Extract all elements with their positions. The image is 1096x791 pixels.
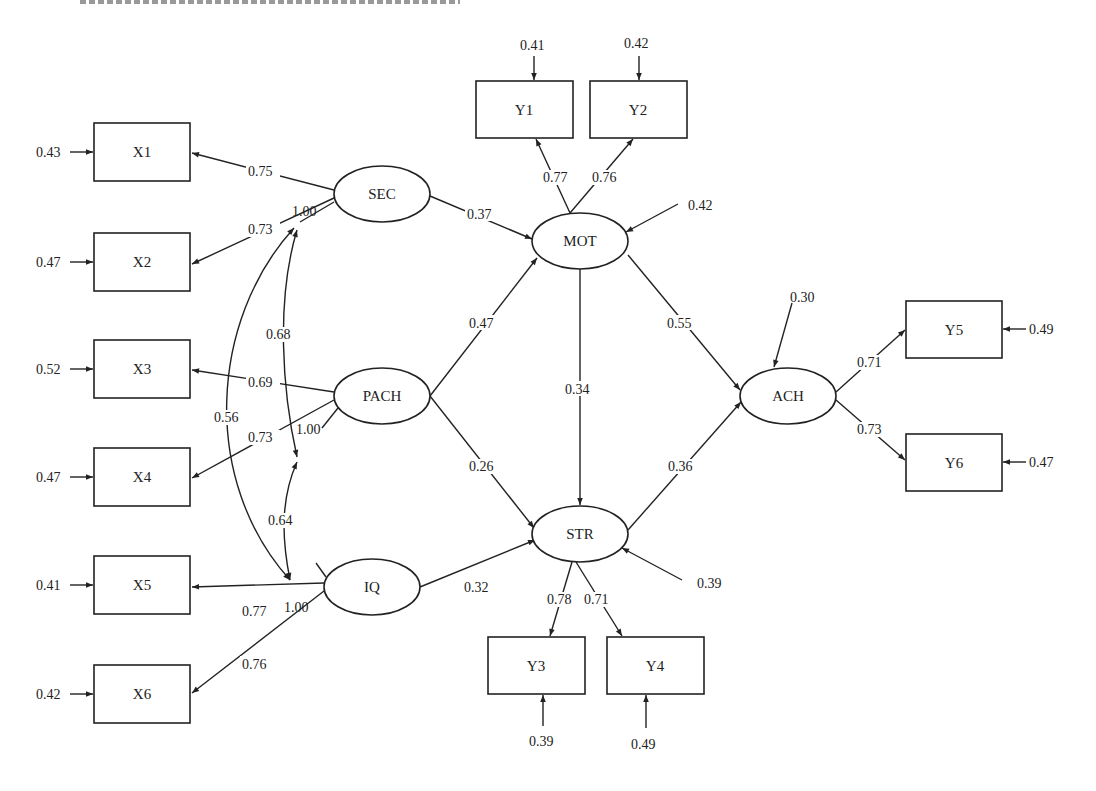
latent-ach: ACH xyxy=(740,368,836,424)
error-x2: 0.47 xyxy=(36,255,61,270)
error-y6: 0.47 xyxy=(1029,455,1054,470)
dist-arrow-ach xyxy=(774,303,792,367)
error-x3: 0.52 xyxy=(36,362,61,377)
cov-sec-pach xyxy=(283,230,297,457)
label-x1: X1 xyxy=(133,144,151,160)
label-y4: Y4 xyxy=(646,658,665,674)
loading-str-y4: 0.71 xyxy=(584,592,609,607)
observed-y3: Y3 xyxy=(488,637,585,694)
loading-str-y3: 0.78 xyxy=(547,592,572,607)
var-line-iq xyxy=(316,563,326,577)
observed-x5: X5 xyxy=(94,556,190,614)
disturbance-str: 0.39 xyxy=(697,576,722,591)
edge-iq-x5 xyxy=(192,583,324,587)
loading-pach-x3: 0.69 xyxy=(248,375,273,390)
latent-iq: IQ xyxy=(324,559,420,615)
label-ach: ACH xyxy=(772,388,804,404)
observed-x2: X2 xyxy=(94,233,190,291)
error-x5: 0.41 xyxy=(36,578,61,593)
observed-y5: Y5 xyxy=(906,301,1002,358)
observed-x6: X6 xyxy=(94,665,190,723)
label-x2: X2 xyxy=(133,254,151,270)
path-coef-mot-str: 0.34 xyxy=(565,382,590,397)
observed-x1: X1 xyxy=(94,123,190,181)
error-x6: 0.42 xyxy=(36,687,61,702)
observed-x4: X4 xyxy=(94,448,190,506)
path-coef-mot-ach: 0.55 xyxy=(667,316,692,331)
label-x6: X6 xyxy=(133,686,152,702)
var-line-pach xyxy=(322,408,338,428)
error-x4: 0.47 xyxy=(36,470,61,485)
label-pach: PACH xyxy=(363,388,402,404)
observed-y4: Y4 xyxy=(607,637,704,694)
error-y1: 0.41 xyxy=(520,38,545,53)
disturbance-mot: 0.42 xyxy=(688,198,713,213)
dist-arrow-mot xyxy=(626,204,678,232)
observed-y1: Y1 xyxy=(476,81,573,138)
error-y4: 0.49 xyxy=(631,737,656,752)
label-y1: Y1 xyxy=(515,102,533,118)
loading-mot-y1: 0.77 xyxy=(543,170,568,185)
cov-coef-pach-iq: 0.64 xyxy=(268,513,293,528)
error-y5: 0.49 xyxy=(1029,322,1054,337)
label-x5: X5 xyxy=(133,577,151,593)
path-coef-pach-str: 0.26 xyxy=(469,459,494,474)
sem-diagram: X1 X2 X3 X4 X5 X6 Y1 Y2 Y3 Y4 Y5 Y6 SEC … xyxy=(0,0,1096,791)
error-x1: 0.43 xyxy=(36,145,61,160)
label-x4: X4 xyxy=(133,469,152,485)
observed-x3: X3 xyxy=(94,340,190,398)
label-str: STR xyxy=(566,526,594,542)
cov-coef-sec-iq: 0.56 xyxy=(214,410,239,425)
label-y5: Y5 xyxy=(945,322,963,338)
label-y2: Y2 xyxy=(629,102,647,118)
variance-pach: 1.00 xyxy=(296,422,321,437)
label-x3: X3 xyxy=(133,361,151,377)
label-y6: Y6 xyxy=(945,455,964,471)
path-coef-iq-str: 0.32 xyxy=(464,580,489,595)
error-y3: 0.39 xyxy=(529,734,554,749)
diagram-svg: X1 X2 X3 X4 X5 X6 Y1 Y2 Y3 Y4 Y5 Y6 SEC … xyxy=(0,0,1096,791)
latent-sec: SEC xyxy=(334,166,430,222)
label-sec: SEC xyxy=(368,186,396,202)
observed-y6: Y6 xyxy=(906,434,1002,491)
label-iq: IQ xyxy=(364,579,380,595)
loading-iq-x6: 0.76 xyxy=(242,657,267,672)
loading-iq-x5: 0.77 xyxy=(242,604,267,619)
disturbance-ach: 0.30 xyxy=(790,290,815,305)
loading-pach-x4: 0.73 xyxy=(248,430,273,445)
error-y2: 0.42 xyxy=(624,36,649,51)
loading-ach-y6: 0.73 xyxy=(857,422,882,437)
latent-mot: MOT xyxy=(532,213,628,269)
loading-sec-x2: 0.73 xyxy=(248,222,273,237)
loading-ach-y5: 0.71 xyxy=(857,355,882,370)
observed-y2: Y2 xyxy=(590,81,687,138)
label-y3: Y3 xyxy=(527,658,545,674)
path-coef-sec-mot: 0.37 xyxy=(467,207,492,222)
path-coef-str-ach: 0.36 xyxy=(668,459,693,474)
variance-sec: 1.00 xyxy=(292,204,317,219)
label-mot: MOT xyxy=(563,233,596,249)
loading-sec-x1: 0.75 xyxy=(248,164,273,179)
dist-arrow-str xyxy=(622,548,682,580)
path-coef-pach-mot: 0.47 xyxy=(469,316,494,331)
latent-str: STR xyxy=(532,506,628,562)
error-arrows xyxy=(70,56,1026,728)
loading-mot-y2: 0.76 xyxy=(592,170,617,185)
latent-pach: PACH xyxy=(334,368,430,424)
cov-coef-sec-pach: 0.68 xyxy=(266,327,291,342)
variance-iq: 1.00 xyxy=(284,600,309,615)
